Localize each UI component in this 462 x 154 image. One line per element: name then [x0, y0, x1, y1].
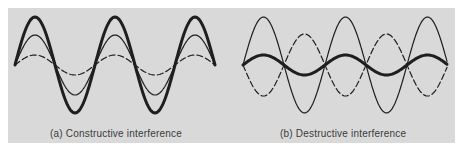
resultant-thick	[15, 17, 215, 113]
caption-constructive-interference: (a) Constructive interference	[50, 128, 182, 139]
wave-1-dashed	[15, 55, 215, 75]
resultant-thick	[243, 55, 447, 75]
panel-constructive-interference	[15, 17, 215, 113]
wave-1-thin	[243, 17, 447, 113]
wave-2-dashed	[243, 34, 447, 96]
panel-destructive-interference	[243, 17, 447, 113]
caption-destructive-interference: (b) Destructive interference	[280, 128, 406, 139]
wave-2-thin	[15, 35, 215, 95]
